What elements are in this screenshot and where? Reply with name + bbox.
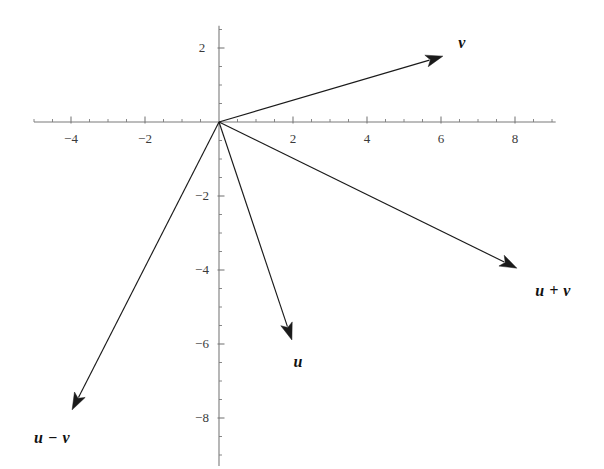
y-tick-label: −4 xyxy=(195,262,209,278)
vector-label-u+v: u + v xyxy=(535,282,571,300)
vector-arrowhead-u+v xyxy=(499,255,517,268)
plot-canvas xyxy=(0,0,604,469)
x-tick-label: −2 xyxy=(138,131,152,147)
vector-shaft-v xyxy=(219,60,429,122)
y-tick-label: −8 xyxy=(195,410,209,426)
x-tick-label: 4 xyxy=(364,131,371,147)
x-tick-label: 2 xyxy=(290,131,297,147)
y-tick-label: −6 xyxy=(195,336,209,352)
x-tick-label: −4 xyxy=(64,131,78,147)
x-tick-label: 6 xyxy=(438,131,445,147)
vector-arrowhead-u-v xyxy=(72,392,85,410)
y-tick-label: −2 xyxy=(195,188,209,204)
vector-diagram-figure: −4−224682−2−4−6−8vuu + vu − v xyxy=(0,0,604,469)
x-tick-label: 8 xyxy=(512,131,519,147)
vector-shaft-u+v xyxy=(219,122,504,262)
vector-label-u-v: u − v xyxy=(34,429,70,447)
vector-shaft-u xyxy=(219,122,287,327)
y-tick-label: 2 xyxy=(199,40,206,56)
vector-label-v: v xyxy=(458,34,466,52)
vector-shaft-u-v xyxy=(78,122,219,397)
vector-label-u: u xyxy=(293,353,302,371)
